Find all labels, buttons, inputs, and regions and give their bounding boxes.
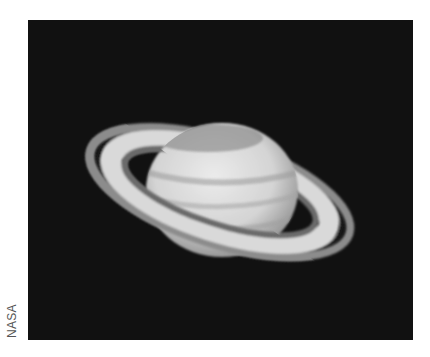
saturn-photo <box>28 20 413 340</box>
photo-credit: NASA <box>5 304 19 338</box>
saturn-illustration <box>28 20 413 340</box>
